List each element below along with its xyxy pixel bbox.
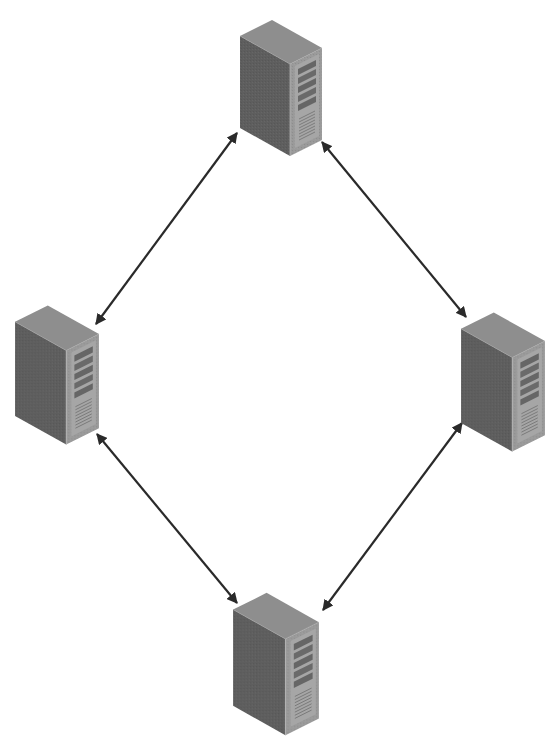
connection-bottom-right bbox=[323, 423, 462, 610]
connection-top-right bbox=[322, 142, 466, 317]
server-top-icon bbox=[240, 20, 322, 156]
server-bottom-icon bbox=[233, 593, 319, 735]
connection-left-top bbox=[96, 133, 237, 324]
server-right-icon bbox=[461, 312, 545, 451]
servers bbox=[15, 20, 545, 735]
server-left-icon bbox=[15, 305, 99, 444]
network-diagram bbox=[0, 0, 555, 739]
connection-left-bottom bbox=[97, 434, 237, 603]
connections bbox=[96, 133, 466, 610]
